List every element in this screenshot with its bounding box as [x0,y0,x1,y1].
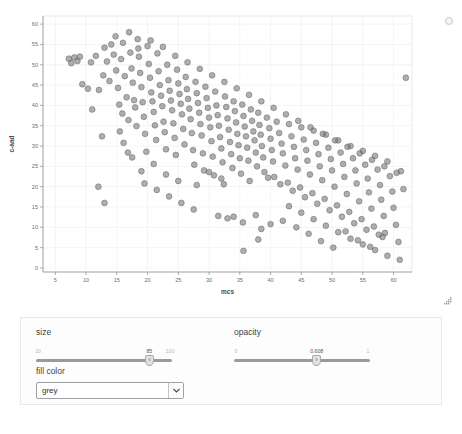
size-slider-min-label: 10 [35,348,41,354]
svg-text:25: 25 [32,163,38,169]
opacity-slider[interactable]: 0 0.608 1 [234,348,389,366]
fill-color-label: fill color [36,366,196,376]
opacity-slider-handle[interactable] [312,355,321,366]
svg-text:15: 15 [114,277,120,283]
svg-text:45: 45 [32,82,38,88]
svg-text:40: 40 [32,102,38,108]
resize-grip-icon[interactable] [443,292,453,302]
size-slider-group: size 10 85 100 [36,327,191,366]
svg-text:20: 20 [32,184,38,190]
busy-indicator-icon [445,17,453,25]
fill-color-select[interactable]: grey [36,382,184,399]
opacity-slider-min-label: 0 [235,348,238,354]
svg-text:10: 10 [83,277,89,283]
svg-text:mcs: mcs [221,288,234,295]
svg-text:40: 40 [267,277,273,283]
size-slider-handle[interactable] [145,355,154,366]
svg-text:60: 60 [32,21,38,27]
svg-text:35: 35 [237,277,243,283]
svg-text:5: 5 [54,277,57,283]
svg-text:60: 60 [390,277,396,283]
svg-text:0: 0 [35,265,38,271]
opacity-slider-max-label: 1 [367,348,370,354]
opacity-slider-track[interactable] [234,359,370,362]
svg-text:55: 55 [360,277,366,283]
size-slider[interactable]: 10 85 100 [36,348,191,366]
fill-color-group: fill color grey [36,366,196,399]
svg-text:30: 30 [32,143,38,149]
scatter-plot-panel: 5101520253035404550556005101520253035404… [0,0,462,310]
scatter-plot-svg: 5101520253035404550556005101520253035404… [0,0,462,310]
svg-text:45: 45 [298,277,304,283]
opacity-slider-value-label: 0.608 [310,348,323,354]
chevron-down-icon[interactable] [168,383,183,398]
size-slider-max-label: 100 [166,348,174,354]
svg-text:55: 55 [32,41,38,47]
svg-text:50: 50 [32,62,38,68]
fill-color-selected-value: grey [37,386,58,395]
svg-text:15: 15 [32,204,38,210]
opacity-slider-label: opacity [234,327,389,337]
size-slider-value-label: 85 [146,348,152,354]
svg-text:5: 5 [35,245,38,251]
svg-text:10: 10 [32,224,38,230]
svg-text:30: 30 [206,277,212,283]
controls-panel: size 10 85 100 opacity 0 0.608 1 fill co… [20,317,442,405]
size-slider-label: size [36,327,191,337]
svg-text:20: 20 [144,277,150,283]
svg-text:c-aad: c-aad [8,135,15,152]
svg-text:35: 35 [32,123,38,129]
opacity-slider-group: opacity 0 0.608 1 [234,327,389,366]
opacity-slider-ticks: 0 0.608 1 [234,348,370,357]
svg-text:25: 25 [175,277,181,283]
svg-text:50: 50 [329,277,335,283]
